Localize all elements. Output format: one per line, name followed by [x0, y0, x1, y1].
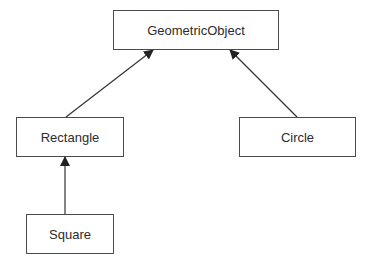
class-box-square: Square: [26, 214, 114, 254]
class-label: GeometricObject: [147, 23, 245, 38]
arrow-circle-to-geometricobject: [230, 50, 297, 117]
arrow-rectangle-to-geometricobject: [66, 50, 153, 117]
class-box-geometricobject: GeometricObject: [113, 10, 279, 50]
class-box-rectangle: Rectangle: [16, 117, 124, 157]
class-label: Circle: [281, 130, 314, 145]
class-label: Rectangle: [41, 130, 100, 145]
class-label: Square: [49, 227, 91, 242]
class-box-circle: Circle: [239, 117, 356, 157]
